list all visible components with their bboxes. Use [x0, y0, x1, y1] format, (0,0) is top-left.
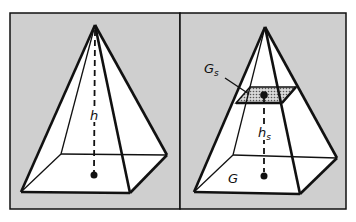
section-centroid-dot: [260, 91, 268, 99]
front-base-edge: [21, 192, 130, 193]
height-label: h: [90, 108, 98, 123]
base-centroid-dot: [91, 172, 98, 179]
base-centroid-dot: [261, 173, 268, 180]
height-line: [94, 30, 95, 172]
pyramid-diagram: h hs Gs G: [0, 0, 356, 222]
base-area-label: G: [228, 171, 238, 186]
